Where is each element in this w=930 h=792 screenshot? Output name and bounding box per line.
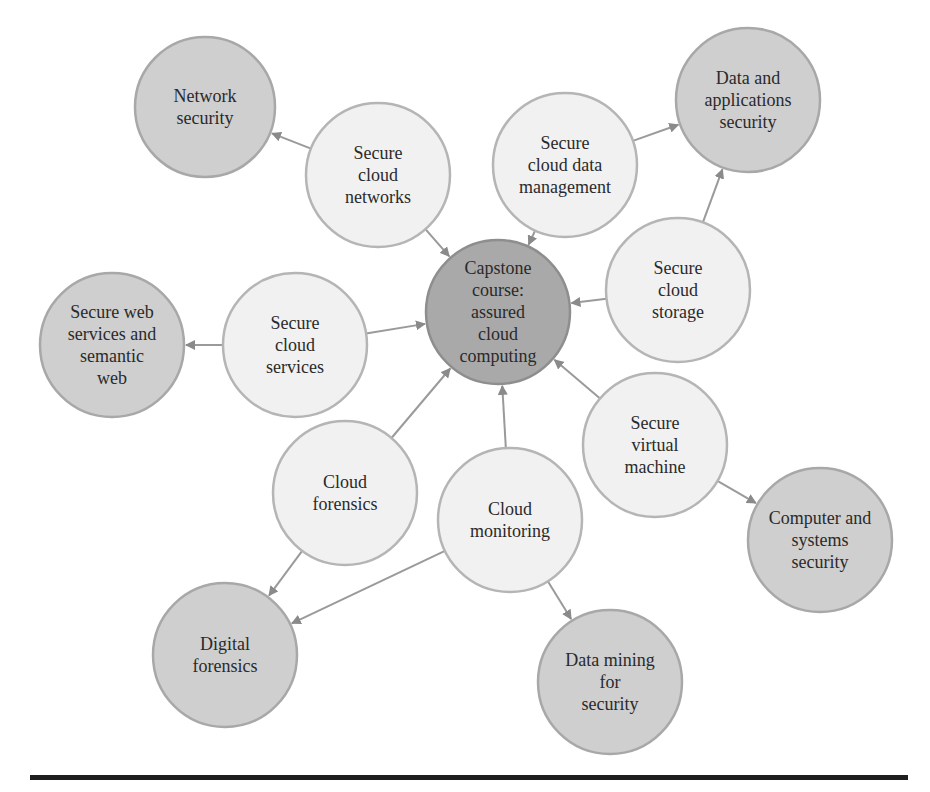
node-secure-cloud-data-management: Securecloud datamanagement (493, 93, 637, 237)
arrow-secure-cloud-services-to-capstone (366, 324, 425, 334)
node-label: Capstonecourse:assuredcloudcomputing (460, 258, 537, 366)
node-circle (135, 37, 275, 177)
arrow-cloud-monitoring-to-data-mining-for-security (548, 581, 571, 619)
arrow-secure-cloud-data-management-to-data-and-applications-security (633, 125, 678, 141)
arrow-secure-virtual-machine-to-computer-and-systems-security (717, 481, 755, 503)
node-secure-web-services-and-semantic-web: Secure webservices andsemanticweb (40, 273, 184, 417)
arrow-secure-cloud-networks-to-network-security (272, 133, 311, 148)
arrow-secure-cloud-storage-to-data-and-applications-security (703, 169, 723, 222)
node-data-and-applications-security: Data andapplicationssecurity (676, 28, 820, 172)
nodes-layer: Capstonecourse:assuredcloudcomputingSecu… (40, 28, 892, 754)
node-circle (273, 421, 417, 565)
node-secure-cloud-networks: Securecloudnetworks (306, 103, 450, 247)
node-data-mining-for-security: Data miningforsecurity (538, 610, 682, 754)
arrow-secure-cloud-data-management-to-capstone (529, 231, 535, 245)
arrow-secure-virtual-machine-to-capstone (554, 360, 600, 399)
arrow-secure-cloud-storage-to-capstone (571, 299, 606, 303)
node-circle (40, 273, 184, 417)
node-secure-virtual-machine: Securevirtualmachine (583, 373, 727, 517)
node-capstone: Capstonecourse:assuredcloudcomputing (426, 240, 570, 384)
node-digital-forensics: Digitalforensics (153, 583, 297, 727)
node-label: Securecloudstorage (652, 258, 704, 322)
arrow-secure-cloud-networks-to-capstone (425, 229, 449, 256)
arrow-cloud-monitoring-to-capstone (502, 386, 506, 448)
node-label: Securevirtualmachine (625, 413, 686, 477)
node-cloud-monitoring: Cloudmonitoring (438, 448, 582, 592)
concept-diagram: Capstonecourse:assuredcloudcomputingSecu… (0, 0, 930, 792)
arrow-cloud-forensics-to-digital-forensics (269, 551, 302, 596)
bottom-rule (30, 775, 908, 780)
node-secure-cloud-storage: Securecloudstorage (606, 218, 750, 362)
node-cloud-forensics: Cloudforensics (273, 421, 417, 565)
node-secure-cloud-services: Securecloudservices (223, 273, 367, 417)
node-circle (438, 448, 582, 592)
arrow-cloud-forensics-to-capstone (391, 369, 450, 438)
node-circle (153, 583, 297, 727)
node-network-security: Networksecurity (135, 37, 275, 177)
node-computer-and-systems-security: Computer andsystemssecurity (748, 468, 892, 612)
